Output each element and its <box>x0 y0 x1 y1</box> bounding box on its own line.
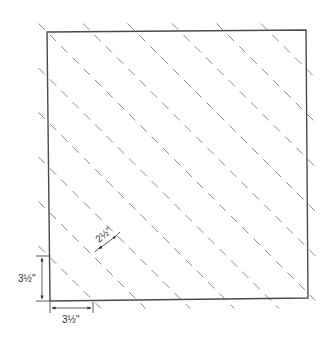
diagram-canvas: 3½" 3½" 2½" <box>0 0 335 339</box>
diagonal-dashed-line <box>128 24 316 212</box>
horizontal-dimension: 3½" <box>50 302 93 325</box>
line-spacing-label: 2½" <box>93 225 114 245</box>
block-diagram: 3½" 3½" 2½" <box>0 0 335 339</box>
diagonal-dashed-line <box>217 24 316 123</box>
line-spacing-dimension: 2½" <box>93 225 120 252</box>
diagonal-dashed-line <box>39 113 235 309</box>
horizontal-dimension-label: 3½" <box>62 314 80 325</box>
diagonal-dashed-line <box>261 24 316 79</box>
vertical-dimension-label: 3½" <box>18 273 36 284</box>
vertical-dimension: 3½" <box>18 256 50 301</box>
diagonal-dashed-line <box>172 24 316 168</box>
diagonal-dashed-line <box>83 24 316 257</box>
diagonal-dashed-line <box>39 24 316 301</box>
diagonal-dashed-line <box>39 68 280 309</box>
line-spacing-tick-a <box>95 246 101 252</box>
diagonal-cutting-lines <box>39 24 316 309</box>
diagonal-dashed-line <box>39 246 102 309</box>
diagonal-dashed-line <box>39 202 146 309</box>
diagonal-dashed-line <box>39 157 191 309</box>
